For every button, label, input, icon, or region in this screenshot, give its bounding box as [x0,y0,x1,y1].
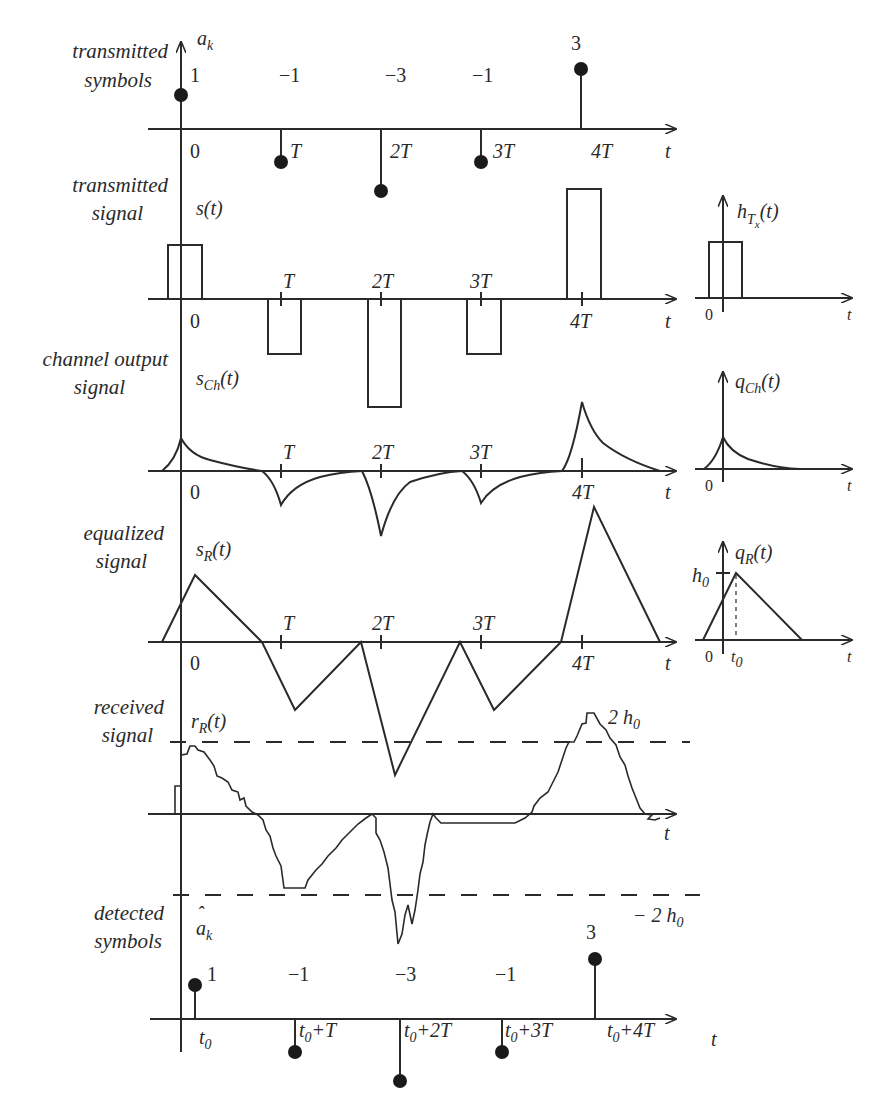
inset-y-label: qCh(t) [735,370,781,396]
panel-label-line2: signal [96,549,148,573]
panel-label-line1: channel output [43,347,170,371]
pulse-0 [168,245,202,299]
value-label: −1 [279,64,300,86]
stem-marker-2 [393,1074,407,1088]
stem-marker-0 [188,978,202,992]
tick-label: 4T [591,140,614,162]
value-label: −3 [385,64,406,86]
tick-label: 0 [190,310,200,332]
panel-transmitted-signal: transmitted signal s(t) T 2T 3T 0 4T t [72,173,676,407]
tick-label: 2T [372,270,395,292]
tick-label: t0+4T [607,1019,656,1045]
panel-label-line1: received [94,695,165,719]
stem-marker-2 [374,184,388,198]
inset-pulse [704,437,800,469]
inset-tick-label: 0 [705,306,713,323]
tick-label: t0+2T [404,1019,453,1045]
pulse-3 [467,299,501,354]
x-axis-label: t [664,822,670,844]
pulse-1 [268,299,301,354]
tick-label: 4T [572,652,595,674]
x-axis-label: t [665,652,671,674]
inset-pulse [703,573,802,640]
x-axis-label: t [665,481,671,503]
stem-marker-3 [474,155,488,169]
tick-label: 2T [372,441,395,463]
tick-label: t0+3T [505,1019,554,1045]
pulse-4 [567,189,601,299]
value-label: 3 [586,921,596,943]
tick-label: 3T [469,270,493,292]
panel-label-line2: signal [102,723,154,747]
panel-label-line2: signal [74,375,126,399]
stem-marker-0 [174,88,188,102]
pulse-2 [362,471,462,536]
tick-label: 2T [390,140,413,162]
panel-detected-symbols: detected symbols ak ˆ 1 −1 −3 −1 3 t0 t0… [94,901,717,1088]
inset-x-label: t [847,306,852,323]
value-label: −1 [288,963,309,985]
value-label: −1 [472,64,493,86]
y-axis-label-rr: rR(t) [191,710,227,736]
tick-label: T [283,612,296,634]
panel-label-line1: detected [94,901,164,925]
pulse-2 [368,299,401,407]
pam-transmission-diagram: transmitted symbols ak 1 −1 −3 −1 3 0 T … [0,0,888,1116]
stem-marker-4 [588,952,602,966]
y-axis-label-sch: sCh(t) [196,367,239,393]
tick-label: 3T [492,140,516,162]
y-axis-label-ak: ak [197,27,214,53]
inset-pulse [709,242,742,298]
value-label: 1 [207,963,217,985]
tick-label: 0 [190,140,200,162]
lower-threshold-label: − 2 h0 [633,904,684,930]
value-label: −3 [395,963,416,985]
stem-marker-1 [274,155,288,169]
value-label: 3 [571,32,581,54]
panel-label-line1: transmitted [72,39,168,63]
stem-marker-1 [288,1045,302,1059]
panel-label-line2: symbols [94,929,162,953]
tick-label: 4T [572,481,595,503]
inset-q-r: qR(t) h0 0 t0 t [692,541,852,670]
inset-q-ch: qCh(t) 0 t [695,370,852,494]
received-waveform [175,713,660,944]
inset-x-label: t [847,477,852,494]
inset-y-label: hTx(t) [737,200,779,230]
x-axis-label: t [711,1028,717,1050]
inset-h0-label: h0 [692,564,709,590]
pulse-0 [162,438,262,471]
inset-x-label: t [847,648,852,665]
x-axis-label: t [665,140,671,162]
stem-marker-3 [495,1045,509,1059]
tick-label: 0 [190,481,200,503]
inset-t0-label: t0 [731,648,742,670]
panel-channel-output-signal: channel output signal sCh(t) T 2T 3T 0 4… [43,347,676,536]
panel-label-line2: symbols [84,68,152,92]
tick-label: T [283,270,296,292]
inset-h-tx: hTx(t) 0 t [695,196,852,323]
pulse-1 [262,471,362,505]
x-axis-label: t [665,310,671,332]
panel-equalized-signal: equalized signal sR(t) T 2T 3T 0 4T t [84,507,676,775]
tick-label: t0 [199,1026,212,1052]
tick-label: 2T [372,612,395,634]
tick-label: 3T [469,441,493,463]
panel-label-line1: transmitted [72,173,168,197]
stem-marker-4 [574,62,588,76]
panel-label-line1: equalized [84,521,165,545]
upper-threshold-label: 2 h0 [608,706,640,732]
pulse-3 [462,471,562,503]
y-axis-label-st: s(t) [196,197,223,220]
tick-label: 0 [190,652,200,674]
value-label: −1 [495,963,516,985]
panel-label-line2: signal [92,201,144,225]
inset-tick-label: 0 [705,648,713,665]
value-label: 1 [190,64,200,86]
tick-label: T [283,441,296,463]
panel-received-signal: received signal rR(t) 2 h0 − 2 h0 t [94,695,700,944]
tick-label: 3T [472,612,496,634]
inset-y-label: qR(t) [735,541,773,567]
tick-label: t0+T [299,1019,338,1045]
tick-label: T [290,140,303,162]
